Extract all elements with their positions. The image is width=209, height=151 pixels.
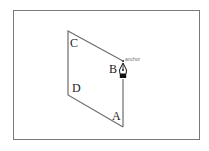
pen-tool-icon — [120, 63, 127, 78]
vertex-label-a: A — [112, 110, 121, 122]
vertex-label-b: B — [109, 63, 117, 75]
vertex-label-c: C — [70, 37, 78, 49]
vertex-label-d: D — [72, 82, 81, 94]
cursor-tooltip-anchor: anchor — [125, 57, 140, 62]
drawing-canvas[interactable] — [0, 0, 209, 151]
anchor-point-marker[interactable] — [122, 60, 124, 62]
